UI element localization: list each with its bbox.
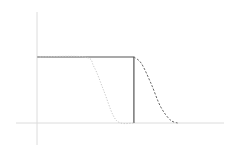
- series-early-sigmoid: [37, 56, 134, 123]
- series-late-sigmoid: [134, 57, 178, 123]
- series-step: [37, 57, 134, 123]
- chart: [0, 0, 234, 156]
- series-layer: [37, 56, 178, 123]
